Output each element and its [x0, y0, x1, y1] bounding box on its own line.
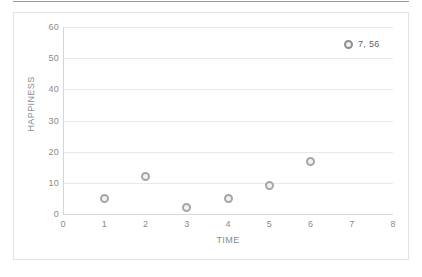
- x-tick-label: 2: [131, 219, 161, 230]
- gridline: [63, 152, 393, 153]
- x-tick-label: 1: [89, 219, 119, 230]
- top-divider-rule: [13, 1, 409, 2]
- plot-area: [63, 27, 393, 214]
- y-tick-label: 10: [25, 178, 59, 188]
- legend-entry-label: 7, 56: [358, 39, 380, 49]
- data-point-marker: [182, 203, 191, 212]
- gridline: [63, 121, 393, 122]
- ring-marker-icon: [344, 40, 353, 49]
- chart-legend: 7, 56: [344, 39, 380, 49]
- x-tick-label: 6: [296, 219, 326, 230]
- x-tick-label: 5: [254, 219, 284, 230]
- x-axis-tick-labels: 012345678: [63, 219, 393, 233]
- x-tick-label: 0: [48, 219, 78, 230]
- data-point-marker: [224, 194, 233, 203]
- gridline: [63, 89, 393, 90]
- y-tick-label: 0: [25, 209, 59, 219]
- data-point-marker: [265, 181, 274, 190]
- data-point-marker: [141, 172, 150, 181]
- chart-card: 0102030405060 012345678 TIME HAPPINESS 7…: [13, 12, 409, 260]
- data-point-marker: [306, 157, 315, 166]
- y-axis-title: HAPPINESS: [26, 59, 36, 149]
- x-tick-label: 4: [213, 219, 243, 230]
- gridline: [63, 58, 393, 59]
- gridline: [63, 214, 393, 215]
- gridline: [63, 27, 393, 28]
- x-tick-label: 8: [378, 219, 408, 230]
- data-point-marker: [100, 194, 109, 203]
- y-axis-line: [63, 27, 64, 214]
- x-tick-label: 3: [172, 219, 202, 230]
- x-tick-label: 7: [337, 219, 367, 230]
- x-axis-title: TIME: [63, 235, 393, 245]
- plot-wrapper: [63, 27, 393, 214]
- y-tick-label: 60: [25, 22, 59, 32]
- gridline: [63, 183, 393, 184]
